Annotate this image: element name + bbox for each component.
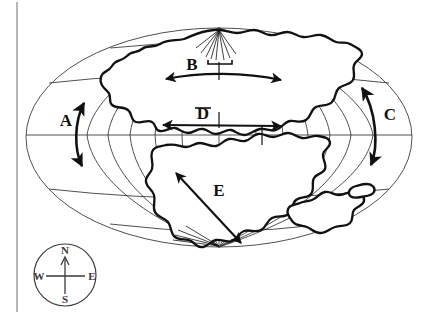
drift-arrow-d	[163, 125, 281, 126]
compass-label-south: S	[62, 293, 68, 305]
drift-arrow-label-d: D	[197, 104, 209, 123]
diagram-page: A B C D E N E S W	[0, 0, 437, 320]
landmass-eastern-sliver	[349, 184, 375, 198]
compass-rose: N E S W	[34, 244, 97, 306]
compass-label-north: N	[61, 244, 69, 256]
drift-arrow-label-e: E	[213, 181, 224, 200]
drift-arrow-label-b: B	[186, 55, 197, 74]
drift-arrow-label-a: A	[60, 111, 73, 130]
compass-label-west: W	[34, 270, 45, 282]
pangaea-map-figure: A B C D E N E S W	[0, 0, 437, 320]
compass-label-east: E	[88, 270, 95, 282]
drift-arrow-label-c: C	[384, 105, 396, 124]
